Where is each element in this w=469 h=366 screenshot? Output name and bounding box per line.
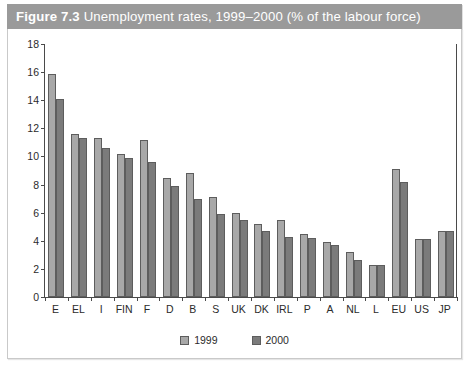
y-axis-tick-mark: [41, 185, 45, 186]
bar-group: [322, 44, 340, 297]
bar-group: [299, 44, 317, 297]
bar-L-2000: [377, 265, 385, 297]
bar-group: [93, 44, 111, 297]
y-axis-tick-mark: [41, 100, 45, 101]
y-axis-tick-mark: [41, 72, 45, 73]
x-axis-tick-mark: [45, 297, 46, 301]
x-axis-label-E: E: [52, 303, 59, 315]
bar-IRL-2000: [285, 237, 293, 297]
x-axis-label-JP: JP: [438, 303, 450, 315]
x-axis-tick-mark: [182, 297, 183, 301]
plot-right-border: [456, 44, 457, 298]
bar-US-2000: [423, 239, 431, 297]
legend-item-2000: 2000: [252, 334, 289, 346]
bar-group: [276, 44, 294, 297]
x-axis-label-US: US: [414, 303, 429, 315]
bar-group: [231, 44, 249, 297]
bar-DK-2000: [262, 231, 270, 297]
y-axis-tick-mark: [41, 44, 45, 45]
bar-NL-2000: [354, 260, 362, 297]
bar-E-2000: [56, 99, 64, 297]
bar-group: [162, 44, 180, 297]
bar-JP-1999: [438, 231, 446, 297]
x-axis-label-D: D: [166, 303, 174, 315]
legend-label-2000: 2000: [266, 334, 289, 346]
x-axis-label-B: B: [189, 303, 196, 315]
x-axis-tick-mark: [205, 297, 206, 301]
bar-P-1999: [300, 234, 308, 297]
bar-F-1999: [140, 140, 148, 297]
chart-bars-layer: [45, 44, 457, 297]
x-axis-label-UK: UK: [231, 303, 246, 315]
bar-EU-2000: [400, 182, 408, 297]
x-axis-tick-mark: [388, 297, 389, 301]
x-axis-label-FIN: FIN: [116, 303, 133, 315]
x-axis-label-IRL: IRL: [276, 303, 292, 315]
x-axis-label-EL: EL: [72, 303, 85, 315]
chart-plot-area: 024681012141618: [44, 44, 457, 298]
bar-group: [414, 44, 432, 297]
bar-EL-1999: [71, 134, 79, 297]
legend-swatch-1999-icon: [180, 336, 189, 345]
bar-IRL-1999: [277, 220, 285, 297]
figure-container: Figure 7.3 Unemployment rates, 1999–2000…: [0, 0, 469, 366]
bar-S-2000: [217, 214, 225, 297]
bar-UK-2000: [240, 220, 248, 297]
y-axis-tick-mark: [41, 269, 45, 270]
x-axis-tick-mark: [343, 297, 344, 301]
legend-label-1999: 1999: [194, 334, 217, 346]
x-axis-label-F: F: [144, 303, 150, 315]
bar-group: [253, 44, 271, 297]
x-axis-tick-mark: [228, 297, 229, 301]
x-axis-label-A: A: [327, 303, 334, 315]
x-axis-label-EU: EU: [391, 303, 406, 315]
x-axis-tick-mark: [68, 297, 69, 301]
bar-S-1999: [209, 197, 217, 297]
chart-plot-wrapper: 024681012141618 EELIFINFDBSUKDKIRLPANLLE…: [0, 0, 469, 366]
y-axis-tick-mark: [41, 241, 45, 242]
x-axis-tick-mark: [320, 297, 321, 301]
bar-D-2000: [171, 186, 179, 297]
chart-legend: 1999 2000: [0, 334, 469, 346]
x-axis-label-NL: NL: [346, 303, 359, 315]
bar-B-1999: [186, 173, 194, 297]
bar-F-2000: [148, 162, 156, 297]
y-axis-tick-mark: [41, 213, 45, 214]
x-axis-label-S: S: [212, 303, 219, 315]
bar-P-2000: [308, 238, 316, 297]
bar-group: [185, 44, 203, 297]
bar-L-1999: [369, 265, 377, 297]
bar-group: [345, 44, 363, 297]
y-axis-tick-mark: [41, 297, 45, 298]
bar-I-1999: [94, 138, 102, 297]
x-axis-tick-mark: [434, 297, 435, 301]
bar-E-1999: [48, 74, 56, 297]
x-axis-tick-mark: [159, 297, 160, 301]
bar-FIN-2000: [125, 158, 133, 297]
bar-group: [391, 44, 409, 297]
bar-B-2000: [194, 199, 202, 297]
x-axis-tick-mark: [91, 297, 92, 301]
bar-US-1999: [415, 239, 423, 297]
bar-group: [70, 44, 88, 297]
bar-group: [47, 44, 65, 297]
x-axis-label-P: P: [304, 303, 311, 315]
bar-I-2000: [102, 148, 110, 297]
bar-D-1999: [163, 178, 171, 297]
bar-NL-1999: [346, 252, 354, 297]
y-axis-tick-mark: [41, 128, 45, 129]
bar-group: [368, 44, 386, 297]
x-axis-tick-mark: [114, 297, 115, 301]
bar-group: [208, 44, 226, 297]
bar-EL-2000: [79, 138, 87, 297]
bar-EU-1999: [392, 169, 400, 297]
bar-UK-1999: [232, 213, 240, 297]
x-axis-tick-mark: [411, 297, 412, 301]
x-axis-tick-mark: [137, 297, 138, 301]
x-axis-label-I: I: [100, 303, 103, 315]
x-axis-tick-mark: [365, 297, 366, 301]
x-axis-tick-mark: [274, 297, 275, 301]
x-axis-label-L: L: [373, 303, 379, 315]
bar-group: [116, 44, 134, 297]
y-axis-tick-mark: [41, 156, 45, 157]
